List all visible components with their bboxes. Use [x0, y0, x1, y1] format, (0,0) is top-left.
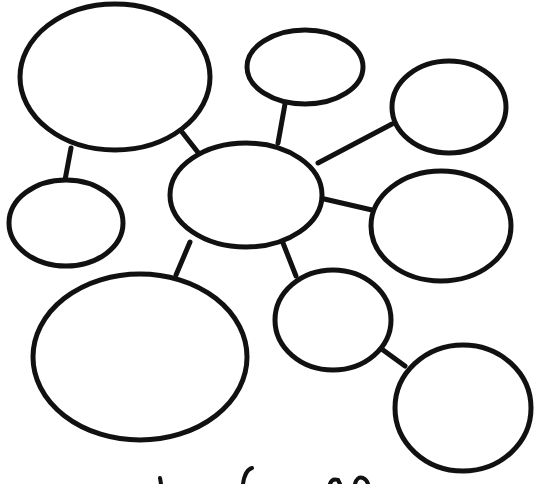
bubble-bottom-right [395, 345, 531, 471]
bubble-top-center [247, 30, 363, 104]
bubble-bottom-left-large [33, 274, 247, 440]
link-top-left-large-to-center [182, 132, 200, 155]
link-center-to-bottom-center [283, 243, 296, 276]
bubble-top-left-large [20, 4, 210, 150]
bubble-shape [371, 171, 511, 281]
bubble-left-small [9, 180, 123, 266]
link-center-to-right-upper [318, 124, 392, 163]
link-center-to-top-center [278, 104, 285, 143]
bubble-map-diagram [0, 0, 544, 484]
bubble-shape [392, 61, 506, 153]
bubble-shape [170, 143, 322, 247]
bubble-shape [9, 180, 123, 266]
cropped-footer-text [160, 468, 368, 484]
bubble-shape [247, 30, 363, 104]
link-bottom-center-to-bottom-right [383, 350, 405, 366]
bubble-shape [395, 345, 531, 471]
bubble-right-upper [392, 61, 506, 153]
bubble-center [170, 143, 322, 247]
bubble-bottom-center [275, 270, 391, 370]
bubble-shape [20, 4, 210, 150]
link-top-left-large-to-left-small [65, 148, 71, 180]
bubble-nodes [9, 4, 531, 471]
link-center-to-right-middle [320, 198, 372, 210]
bubble-shape [275, 270, 391, 370]
link-center-to-bottom-left-large [176, 242, 190, 275]
bubble-right-middle [371, 171, 511, 281]
bubble-shape [33, 274, 247, 440]
